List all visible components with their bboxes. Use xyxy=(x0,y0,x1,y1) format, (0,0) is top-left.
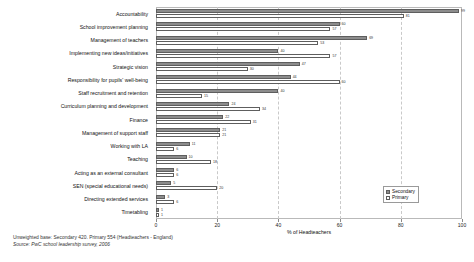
bar-row: 4015 xyxy=(156,87,462,100)
bar-primary xyxy=(156,160,211,164)
bar-line: 21 xyxy=(156,133,462,137)
bar-line: 1 xyxy=(156,213,462,217)
bar-row: 2434 xyxy=(156,100,462,113)
bar-line: 40 xyxy=(156,89,462,93)
category-label: SEN (special educational needs) xyxy=(73,183,148,189)
bar-value-label: 21 xyxy=(222,128,226,132)
bar-value-label: 6 xyxy=(176,147,178,151)
bar-value-label: 34 xyxy=(262,107,266,111)
bar-value-label: 6 xyxy=(176,168,178,172)
chart-legend: Secondary Primary xyxy=(383,186,419,203)
x-tick-label-80: 80 xyxy=(398,222,404,229)
category-label: Acting as an external consultant xyxy=(74,170,148,176)
category-label: Management of teachers xyxy=(91,37,148,43)
category-label: Strategic vision xyxy=(113,64,148,70)
bar-row: 9981 xyxy=(156,7,462,20)
bar-value-label: 24 xyxy=(231,102,235,106)
footnote-base: Unweighted base: Secondary 420. Primary … xyxy=(13,235,453,242)
bar-line: 57 xyxy=(156,54,462,58)
bar-value-label: 3 xyxy=(167,195,169,199)
bar-row: 4460 xyxy=(156,73,462,86)
bar-primary xyxy=(156,80,340,84)
bar-row: 4057 xyxy=(156,47,462,60)
footnote-source: Source: PwC school leadership survey, 20… xyxy=(13,242,453,249)
bar-line: 5 xyxy=(156,181,462,185)
bar-secondary xyxy=(156,36,367,40)
legend-label-primary: Primary xyxy=(392,195,409,200)
bar-primary xyxy=(156,54,330,58)
bar-line: 44 xyxy=(156,75,462,79)
category-label: Responsibility for pupils' well-being xyxy=(68,77,148,83)
category-label: Accountability xyxy=(116,11,148,17)
bar-value-label: 6 xyxy=(176,200,178,204)
bar-line: 18 xyxy=(156,160,462,164)
bar-secondary xyxy=(156,62,300,66)
bar-primary xyxy=(156,213,159,217)
bar-primary xyxy=(156,200,174,204)
bar-row: 1018 xyxy=(156,153,462,166)
bar-secondary xyxy=(156,22,340,26)
bar-primary xyxy=(156,186,217,190)
bar-row: 2121 xyxy=(156,126,462,139)
bar-value-label: 30 xyxy=(250,67,254,71)
bar-line: 6 xyxy=(156,173,462,177)
bar-row: 11 xyxy=(156,206,462,219)
category-label: Finance xyxy=(130,117,148,123)
bar-line: 81 xyxy=(156,14,462,18)
bar-secondary xyxy=(156,155,187,159)
bar-primary xyxy=(156,67,248,71)
bar-secondary xyxy=(156,168,174,172)
category-label: Management of support staff xyxy=(82,130,148,136)
bar-line: 10 xyxy=(156,155,462,159)
bar-value-label: 57 xyxy=(332,27,336,31)
category-label: School improvement planning xyxy=(80,24,148,30)
bar-line: 6 xyxy=(156,168,462,172)
bar-primary xyxy=(156,120,251,124)
bar-line: 69 xyxy=(156,36,462,40)
bar-primary xyxy=(156,107,260,111)
category-label: Implementing new ideas/initiatives xyxy=(69,50,148,56)
bar-value-label: 18 xyxy=(213,160,217,164)
bar-line: 47 xyxy=(156,62,462,66)
category-label: Staff recruitment and retention xyxy=(78,90,148,96)
bar-value-label: 99 xyxy=(461,9,465,13)
bar-line: 40 xyxy=(156,49,462,53)
bar-row: 6057 xyxy=(156,20,462,33)
bar-line: 1 xyxy=(156,208,462,212)
bar-value-label: 6 xyxy=(176,173,178,177)
category-label: Directing extended services xyxy=(84,196,148,202)
bar-row: 4730 xyxy=(156,60,462,73)
bar-secondary xyxy=(156,195,165,199)
bar-value-label: 22 xyxy=(225,115,229,119)
bar-line: 53 xyxy=(156,41,462,45)
x-tick-label-0: 0 xyxy=(155,222,158,229)
bar-value-label: 40 xyxy=(280,49,284,53)
bar-line: 6 xyxy=(156,147,462,151)
bar-line: 34 xyxy=(156,107,462,111)
bar-secondary xyxy=(156,142,190,146)
x-tick-label-40: 40 xyxy=(276,222,282,229)
bar-value-label: 44 xyxy=(293,75,297,79)
bar-secondary xyxy=(156,49,278,53)
bar-line: 11 xyxy=(156,142,462,146)
bar-primary xyxy=(156,94,202,98)
bar-value-label: 60 xyxy=(342,80,346,84)
bar-secondary xyxy=(156,75,291,79)
bar-row: 116 xyxy=(156,140,462,153)
bar-value-label: 81 xyxy=(406,14,410,18)
bar-row: 6953 xyxy=(156,34,462,47)
bar-primary xyxy=(156,147,174,151)
chart-footnotes: Unweighted base: Secondary 420. Primary … xyxy=(13,235,453,248)
bar-value-label: 47 xyxy=(302,62,306,66)
bar-line: 15 xyxy=(156,94,462,98)
bar-line: 60 xyxy=(156,80,462,84)
bar-value-label: 15 xyxy=(204,94,208,98)
bar-row: 2231 xyxy=(156,113,462,126)
bar-line: 60 xyxy=(156,22,462,26)
bar-primary xyxy=(156,14,404,18)
bar-secondary xyxy=(156,208,159,212)
bar-primary xyxy=(156,133,220,137)
x-tick-label-100: 100 xyxy=(458,222,466,229)
bar-line: 30 xyxy=(156,67,462,71)
category-label: Timetabling xyxy=(121,209,148,215)
